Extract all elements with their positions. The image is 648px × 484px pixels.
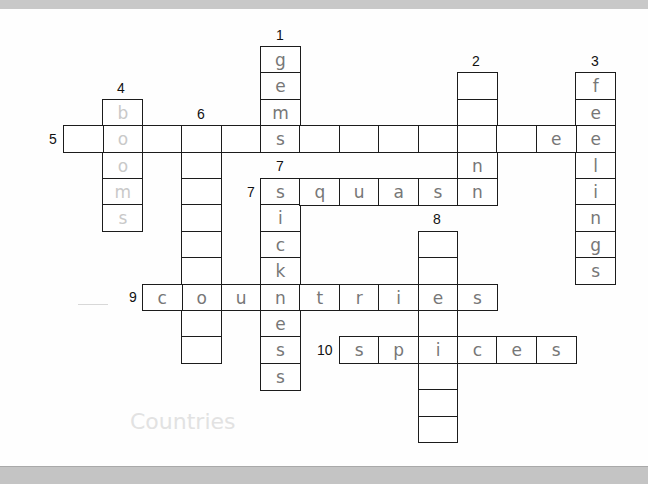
clue-number: 10 [317,342,333,358]
bleed-through-text: Countries [130,409,236,434]
bottom-edge-band [0,466,648,484]
crossword-cell[interactable]: o [102,152,143,180]
crossword-cell[interactable]: s [575,257,616,285]
clue-number: 5 [49,131,57,147]
crossword-cell[interactable] [181,178,222,206]
crossword-cell[interactable]: e [575,99,616,127]
crossword-cell[interactable] [418,257,459,285]
crossword-cell[interactable]: f [575,72,616,100]
crossword-cell[interactable] [181,231,222,259]
crossword-cell[interactable] [181,204,222,232]
clue-number: 6 [197,106,205,122]
crossword-cell[interactable]: c [457,336,498,364]
crossword-cell[interactable] [181,336,222,364]
crossword-cell[interactable] [299,125,340,153]
crossword-cell[interactable] [221,125,262,153]
crossword-cell[interactable]: c [142,284,183,312]
clue-number: 9 [129,289,137,305]
crossword-cell[interactable]: b [102,99,143,127]
crossword-cell[interactable]: n [575,204,616,232]
crossword-cell[interactable]: t [299,284,340,312]
crossword-cell[interactable]: s [260,125,301,153]
crossword-cell[interactable]: i [418,336,459,364]
crossword-cell[interactable]: m [260,99,301,127]
crossword-cell[interactable]: o [181,284,222,312]
clue-number: 3 [591,53,599,69]
crossword-cell[interactable]: c [260,231,301,259]
crossword-cell[interactable]: e [496,336,537,364]
crossword-cell[interactable] [181,125,222,153]
crossword-cell[interactable]: s [260,336,301,364]
crossword-cell[interactable]: s [418,178,459,206]
crossword-cell[interactable]: n [457,152,498,180]
crossword-cell[interactable]: l [575,152,616,180]
crossword-cell[interactable] [418,389,459,417]
crossword-cell[interactable]: i [575,178,616,206]
crossword-cell[interactable]: a [378,178,419,206]
crossword-sheet: Countries gemsnfeelingsboomseosicknessqu… [0,9,648,466]
crossword-cell[interactable]: e [418,284,459,312]
crossword-cell[interactable]: o [102,125,143,153]
crossword-cell[interactable]: s [260,178,301,206]
crossword-cell[interactable]: g [260,46,301,74]
crossword-cell[interactable] [339,125,380,153]
crossword-cell[interactable]: u [221,284,262,312]
crossword-cell[interactable] [181,257,222,285]
crossword-cell[interactable]: e [575,125,616,153]
crossword-cell[interactable] [378,125,419,153]
crossword-cell[interactable] [181,152,222,180]
crossword-cell[interactable]: m [102,178,143,206]
clue-number: 7 [276,158,284,174]
crossword-cell[interactable] [418,231,459,259]
crossword-cell[interactable]: k [260,257,301,285]
crossword-cell[interactable]: s [457,284,498,312]
crossword-cell[interactable]: n [457,178,498,206]
crossword-cell[interactable]: s [339,336,380,364]
crossword-cell[interactable]: i [378,284,419,312]
crossword-cell[interactable] [457,72,498,100]
crossword-cell[interactable] [457,99,498,127]
crossword-cell[interactable]: u [339,178,380,206]
crossword-cell[interactable]: q [299,178,340,206]
crossword-cell[interactable]: s [260,363,301,391]
crossword-cell[interactable]: s [536,336,577,364]
clue-number: 1 [276,27,284,43]
crossword-cell[interactable] [496,125,537,153]
crossword-cell[interactable]: g [575,231,616,259]
clue-number: 8 [433,211,441,227]
crossword-cell[interactable]: e [260,310,301,338]
crossword-cell[interactable] [418,416,459,444]
clue-number: 2 [472,53,480,69]
clue-number: 4 [117,80,125,96]
stray-mark [78,304,108,305]
crossword-cell[interactable]: s [102,204,143,232]
crossword-cell[interactable]: r [339,284,380,312]
crossword-cell[interactable]: e [536,125,577,153]
crossword-cell[interactable] [142,125,183,153]
crossword-cell[interactable] [63,125,104,153]
crossword-cell[interactable]: n [260,284,301,312]
crossword-cell[interactable] [418,125,459,153]
crossword-cell[interactable]: p [378,336,419,364]
crossword-cell[interactable]: i [260,204,301,232]
crossword-cell[interactable] [418,310,459,338]
clue-number: 7 [247,184,255,200]
top-edge-band [0,0,648,9]
crossword-cell[interactable]: e [260,72,301,100]
crossword-cell[interactable] [181,310,222,338]
crossword-cell[interactable] [457,125,498,153]
crossword-cell[interactable] [418,363,459,391]
